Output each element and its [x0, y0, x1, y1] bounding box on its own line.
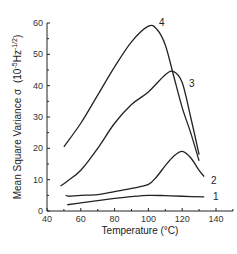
curves: [61, 25, 205, 204]
chart: 0102030405060 406080100120140 Temperatur…: [0, 0, 237, 254]
y-tick-label: 40: [33, 81, 43, 91]
y-title-exp2: -1/2: [11, 38, 18, 50]
curve-label-3: 3: [189, 78, 195, 89]
y-title-units: (10: [12, 68, 23, 83]
y-title-close: ): [12, 35, 23, 38]
x-tick-label: 40: [42, 214, 52, 224]
curve-3: [61, 71, 200, 186]
y-tick-label: 60: [33, 18, 43, 28]
curve-label-1: 1: [213, 191, 219, 202]
y-axis-title: Mean Square Variance σ (10-5Hz-1/2): [11, 35, 23, 200]
y-tick-label: 20: [33, 143, 43, 153]
x-ticks: 406080100120140: [42, 208, 233, 224]
y-tick-label: 30: [33, 112, 43, 122]
x-tick-label: 140: [208, 214, 223, 224]
curve-label-4: 4: [159, 17, 165, 28]
x-tick-label: 100: [141, 214, 156, 224]
x-tick-label: 120: [175, 214, 190, 224]
curve-label-2: 2: [211, 175, 217, 186]
x-tick-label: 60: [76, 214, 86, 224]
y-title-mid: Hz: [12, 50, 23, 62]
curve-1: [67, 195, 204, 204]
y-title-main: Mean Square Variance σ: [12, 88, 23, 199]
x-axis-title: Temperature (°C): [102, 225, 179, 236]
curve-2: [66, 151, 205, 196]
x-tick-label: 80: [110, 214, 120, 224]
y-tick-label: 50: [33, 49, 43, 59]
curve-4: [64, 25, 199, 161]
y-tick-label: 10: [33, 175, 43, 185]
